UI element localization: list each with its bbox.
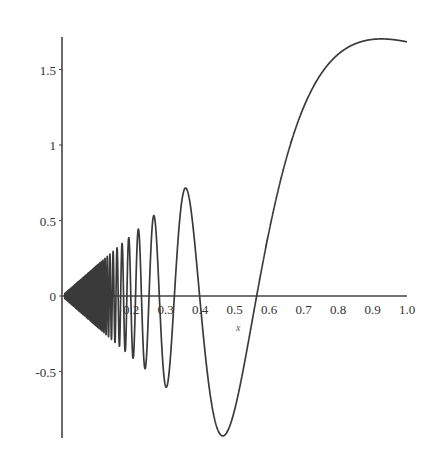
y-tick-label: 0.5 [40,214,56,229]
x-tick-labels: 0.20.30.40.50.60.70.80.91.0 [123,302,415,317]
y-tick-label: 1.5 [40,63,56,78]
function-curve [65,39,407,436]
x-tick-label: 0.9 [364,302,380,317]
function-plot: 0.20.30.40.50.60.70.80.91.0 1.510.50-0.5… [0,0,441,458]
x-tick-label: 0.5 [226,302,242,317]
x-tick-label: 0.7 [295,302,312,317]
x-axis-label: x [235,322,241,333]
y-tick-label: 0 [50,289,57,304]
x-tick-label: 1.0 [399,302,415,317]
y-tick-label: -0.5 [35,365,56,380]
x-tick-label: 0.8 [330,302,346,317]
y-tick-label: 1 [50,138,57,153]
y-tick-labels: 1.510.50-0.5 [35,63,62,380]
x-tick-label: 0.6 [261,302,278,317]
